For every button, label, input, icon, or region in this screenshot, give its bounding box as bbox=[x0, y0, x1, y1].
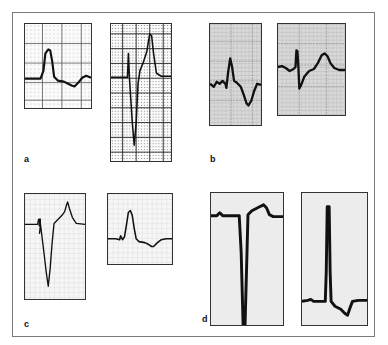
ecg-trace-c1 bbox=[25, 194, 85, 299]
ecg-panel-a1 bbox=[24, 23, 92, 109]
ecg-trace-a2 bbox=[111, 24, 171, 161]
label-d: d bbox=[202, 315, 208, 324]
ecg-panel-c2 bbox=[107, 193, 173, 265]
ecg-panel-b2 bbox=[277, 23, 346, 116]
ecg-panel-d1 bbox=[210, 192, 284, 326]
ecg-trace-d2 bbox=[302, 193, 367, 325]
ecg-trace-a1 bbox=[25, 24, 91, 108]
label-a: a bbox=[24, 155, 29, 164]
ecg-trace-b1 bbox=[210, 24, 261, 125]
ecg-trace-c2 bbox=[108, 194, 172, 264]
ecg-trace-b2 bbox=[278, 24, 345, 115]
ecg-panel-b1 bbox=[209, 23, 262, 126]
ecg-trace-d1 bbox=[211, 193, 283, 325]
ecg-panel-a2 bbox=[110, 23, 172, 162]
ecg-panel-c1 bbox=[24, 193, 86, 300]
label-b: b bbox=[210, 155, 216, 164]
ecg-panel-d2 bbox=[301, 192, 368, 326]
label-c: c bbox=[24, 320, 29, 329]
